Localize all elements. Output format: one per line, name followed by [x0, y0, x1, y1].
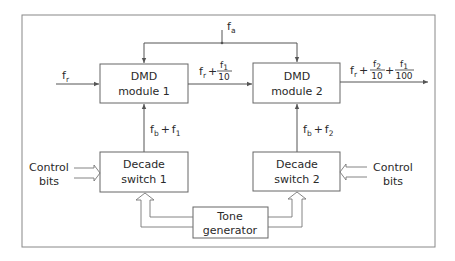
- tone-generator: Tone generator: [193, 207, 268, 238]
- decade-switch-1: Decade switch 1: [100, 152, 188, 192]
- dmd-module-1: DMD module 1: [100, 64, 188, 103]
- dmd-frequency-synthesizer-diagram: fa fr DMD module 1 fr+ f1 10 DMD module …: [0, 0, 455, 261]
- svg-text:fr: fr: [62, 69, 70, 84]
- svg-text:module 2: module 2: [271, 85, 323, 98]
- svg-text:f1: f1: [400, 59, 408, 71]
- hollow-arrow-up-icon: [136, 193, 193, 227]
- svg-text:module 1: module 1: [118, 85, 170, 98]
- svg-text:bits: bits: [383, 175, 403, 188]
- decade-switch-2: Decade switch 2: [253, 152, 340, 191]
- svg-text:Decade: Decade: [276, 158, 318, 171]
- svg-text:Control: Control: [29, 161, 69, 174]
- hollow-arrow-right-icon: [74, 165, 100, 181]
- svg-text:DMD: DMD: [131, 70, 157, 83]
- hollow-arrow-up-icon: [268, 192, 306, 227]
- svg-text:Decade: Decade: [123, 158, 165, 171]
- svg-text:fb+f2: fb+f2: [303, 123, 334, 138]
- svg-text:Tone: Tone: [216, 210, 243, 223]
- svg-text:bits: bits: [39, 175, 59, 188]
- control-bits-right: Control bits: [340, 161, 413, 188]
- dmd-module-2: DMD module 2: [253, 63, 340, 103]
- svg-text:switch 1: switch 1: [121, 173, 167, 186]
- svg-text:switch 2: switch 2: [274, 173, 320, 186]
- svg-text:generator: generator: [203, 224, 258, 237]
- svg-text:fr+: fr+: [350, 64, 368, 79]
- svg-text:Control: Control: [373, 161, 413, 174]
- ds1-output: fb+f1: [144, 104, 181, 152]
- svg-text:100: 100: [395, 71, 412, 81]
- svg-text:DMD: DMD: [284, 70, 310, 83]
- fa-input: fa: [144, 20, 297, 63]
- svg-text:fb+f1: fb+f1: [150, 123, 181, 138]
- svg-text:f2: f2: [373, 59, 381, 71]
- dmd1-output: fr+ f1 10: [188, 60, 252, 84]
- svg-text:fr+: fr+: [199, 65, 217, 80]
- svg-text:+: +: [385, 64, 394, 77]
- fr-input: fr: [56, 69, 99, 84]
- svg-text:10: 10: [371, 71, 383, 81]
- control-bits-left: Control bits: [29, 161, 100, 188]
- svg-text:10: 10: [218, 72, 230, 82]
- svg-text:fa: fa: [227, 20, 235, 35]
- svg-text:f1: f1: [220, 60, 228, 72]
- hollow-arrow-left-icon: [340, 164, 367, 180]
- ds2-output: fb+f2: [297, 104, 334, 152]
- dmd2-output: fr+ f2 10 + f1 100: [340, 59, 428, 82]
